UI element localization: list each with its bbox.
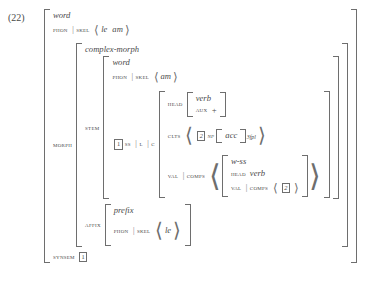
phon-item-am: am [112, 24, 123, 36]
stem-rows: word PHON | SKEL ⟨ [109, 56, 333, 199]
comps-el-bracket-right [302, 155, 308, 197]
stem-phon-row: PHON | SKEL ⟨ am ⟩ [112, 69, 330, 86]
ss-attr: SS [125, 139, 133, 149]
comps-el-head-row: HEAD verb [231, 168, 300, 180]
comps-el-head-attr: HEAD [231, 169, 250, 179]
outer-phon-list: ⟨ le am ⟩ [94, 22, 131, 39]
list-close-angle: ⟩ [124, 22, 130, 39]
clts-row: CLTS ⟨ 2 NP [168, 122, 322, 150]
affix-phon-items: le [163, 217, 172, 245]
stem-type-row: word [112, 57, 330, 69]
comps-el-inner-list: ⟨ 2 ⟩ [272, 180, 299, 197]
clts-items: 2 NP [194, 122, 258, 150]
clts-close-angle: ⟩ [257, 122, 266, 150]
clts-category: NP [207, 131, 216, 141]
stem-type: word [112, 57, 129, 69]
morph-type: complex-morph [85, 44, 139, 56]
comps-close-angle: ⟩ [308, 155, 321, 197]
morph-rows: complex-morph STEM word [82, 43, 342, 246]
affix-open-angle: ⟨ [154, 217, 163, 245]
outer-phon-items: le am [100, 22, 125, 39]
stem-attr: STEM [85, 123, 103, 133]
head-type-row: verb [196, 93, 217, 105]
stem-phon-items: am [159, 69, 173, 86]
clts-list: ⟨ 2 NP [185, 122, 267, 150]
head-row: HEAD verb [168, 92, 322, 118]
comps-open-angle: ⟨ [209, 155, 222, 197]
affix-close-angle: ⟩ [173, 217, 182, 245]
index-tag-1-synsem: 1 [79, 252, 87, 262]
comps-el-val-attr: VAL [231, 183, 243, 193]
aux-value: + [211, 105, 217, 117]
outer-matrix: word PHON | SKEL ⟨ le am ⟩ MORPH [44, 9, 357, 263]
affix-matrix: prefix PHON | SKEL ⟨ [105, 204, 191, 245]
category-rows: HEAD verb [165, 91, 325, 199]
index-tag-2-clts: 2 [197, 131, 205, 141]
comps-list: ⟨ w-ss [209, 155, 322, 197]
head-type: verb [196, 93, 211, 105]
affix-type: prefix [114, 205, 134, 217]
outer-bracket-right [351, 9, 357, 263]
aux-attr: AUX [196, 105, 212, 115]
affix-phon-list: ⟨ le ⟩ [154, 217, 181, 245]
affix-attr: AFFIX [85, 220, 105, 230]
ss-path-label: 1 SS | L | C [112, 139, 158, 149]
c-attr: C [151, 139, 159, 149]
affix-phon-row: PHON | SKEL ⟨ le ⟩ [114, 217, 182, 245]
case-row: acc [225, 130, 237, 142]
comps-el-head-type: verb [250, 168, 265, 180]
morph-type-row: complex-morph [85, 44, 339, 56]
affix-type-row: prefix [114, 205, 182, 217]
val-attr: VAL [168, 171, 180, 181]
avm-root: word PHON | SKEL ⟨ le am ⟩ MORPH [44, 9, 357, 263]
comps-el-val-row: VAL | COMPS ⟨ [231, 180, 300, 197]
clts-open-angle: ⟨ [185, 122, 194, 150]
phon-attr: PHON [53, 25, 70, 35]
aux-row: AUX + [196, 105, 217, 117]
comps-el-type-row: w-ss [231, 156, 300, 168]
head-attr: HEAD [168, 99, 187, 109]
stem-phon-list: ⟨ am ⟩ [153, 69, 179, 86]
case-rows: acc [222, 129, 240, 143]
clts-case: acc [225, 130, 237, 142]
head-matrix: verb AUX + [187, 92, 226, 118]
inner-close-angle: ⟩ [293, 180, 299, 197]
affix-row: AFFIX prefix PHON | [85, 204, 339, 245]
comps-attr: COMPS [187, 171, 209, 181]
morph-attr: MORPH [53, 140, 76, 150]
affix-bracket-right [185, 204, 191, 245]
morph-matrix: complex-morph STEM word [76, 43, 348, 246]
stem-list-close-angle: ⟩ [173, 69, 179, 86]
skel-attr: SKEL [76, 25, 94, 35]
index-tag-1-ss: 1 [114, 139, 122, 149]
inner-items: 2 [278, 180, 293, 197]
comps-el-rows: w-ss HEAD verb [228, 155, 303, 197]
stem-skel-attr: SKEL [136, 72, 154, 82]
outer-type: word [53, 10, 70, 22]
stem-row: STEM word PHON | [85, 56, 339, 199]
clts-case-matrix: acc [216, 129, 246, 143]
outer-rows: word PHON | SKEL ⟨ le am ⟩ MORPH [50, 9, 351, 263]
comps-el-type: w-ss [231, 156, 246, 168]
stem-ss-row: 1 SS | L | C [112, 91, 330, 199]
outer-phon-row: PHON | SKEL ⟨ le am ⟩ [53, 22, 348, 39]
morph-row: MORPH complex-morph STEM [53, 43, 348, 246]
head-rows: verb AUX + [193, 92, 220, 118]
category-matrix: HEAD verb [159, 91, 331, 199]
synsem-attr: SYNSEM [53, 252, 77, 262]
head-bracket-right [220, 92, 226, 118]
stem-bracket-right [333, 56, 339, 199]
comps-el-comps-attr: COMPS [250, 183, 272, 193]
affix-rows: prefix PHON | SKEL ⟨ [111, 204, 185, 245]
synsem-row: SYNSEM 1 [53, 252, 348, 262]
affix-phon-attr: PHON [114, 226, 131, 236]
stem-phon-attr: PHON [112, 72, 129, 82]
outer-type-row: word [53, 10, 348, 22]
affix-skel-attr: SKEL [137, 226, 155, 236]
phon-item-le-affix: le [165, 225, 171, 237]
phon-item-am-stem: am [161, 71, 172, 83]
comps-element-matrix: w-ss HEAD verb [222, 155, 309, 197]
val-comps-row: VAL | COMPS ⟨ [168, 155, 322, 197]
phon-item-le: le [101, 24, 112, 36]
clts-index: 3fpl [246, 134, 256, 142]
